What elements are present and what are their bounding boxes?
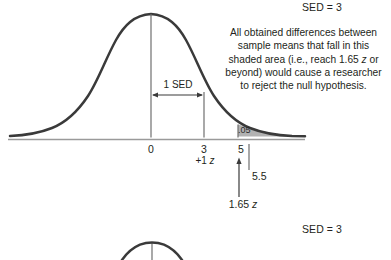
sed-note-bottom: SED = 3	[262, 224, 382, 235]
z-critical-number: 1.65	[229, 198, 252, 210]
axis-tick-label-5: 5	[231, 144, 251, 155]
alpha-level-label: .05	[238, 126, 251, 135]
z-critical-label: 1.65 z	[216, 199, 270, 210]
sed-note-top: SED = 3	[262, 2, 382, 13]
z-critical-upward-arrow	[236, 158, 241, 198]
explanatory-paragraph: All obtained differences between sample …	[222, 26, 385, 92]
value-5-5-label: 5.5	[252, 171, 267, 182]
plus-one-z-label: +1 z	[187, 156, 223, 166]
plus-one-z-number: +1	[195, 155, 209, 166]
plus-one-z-italic: z	[210, 155, 215, 166]
one-sed-span-arrow	[152, 92, 203, 97]
statistics-figure: SED = 3 All obtained differences between…	[0, 0, 391, 260]
paragraph-text-part1: All obtained differences between sample …	[228, 27, 377, 65]
axis-tick-label-0: 0	[141, 144, 161, 155]
axis-tick-label-3: 3	[194, 144, 214, 155]
one-sed-label: 1 SED	[150, 80, 206, 90]
z-critical-italic: z	[252, 198, 257, 210]
